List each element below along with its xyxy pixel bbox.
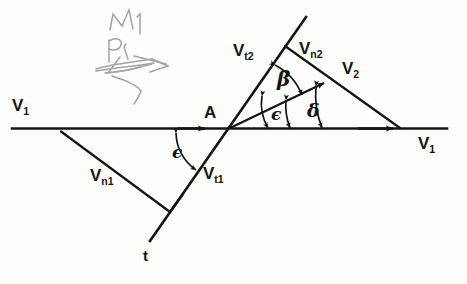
- label-v2: V2: [342, 60, 359, 77]
- label-beta: β: [277, 69, 290, 89]
- label-vt1: Vt1: [203, 165, 224, 182]
- label-delta: δ: [307, 101, 320, 120]
- vn1-component-line: [61, 132, 170, 213]
- label-point-a: A: [204, 104, 216, 121]
- label-vt2: Vt2: [233, 42, 254, 59]
- label-v1-left: V1: [12, 97, 29, 114]
- label-epsilon-upper: ϵ: [271, 106, 281, 123]
- label-vn1: Vn1: [90, 167, 114, 184]
- figure-canvas: V1 V1 A Vt1 Vn1 Vt2 Vn2 V2 ϵ ϵ β δ t: [0, 0, 467, 284]
- epsilon-upper-arc: [286, 100, 290, 128]
- label-v1-right: V1: [418, 135, 435, 152]
- label-epsilon-lower: ϵ: [172, 144, 182, 161]
- pencil-annotation-sketch: [96, 10, 168, 104]
- vn1-closing-segment: [170, 194, 183, 212]
- label-tangent-t: t: [143, 248, 148, 263]
- label-vn2: Vn2: [299, 40, 323, 57]
